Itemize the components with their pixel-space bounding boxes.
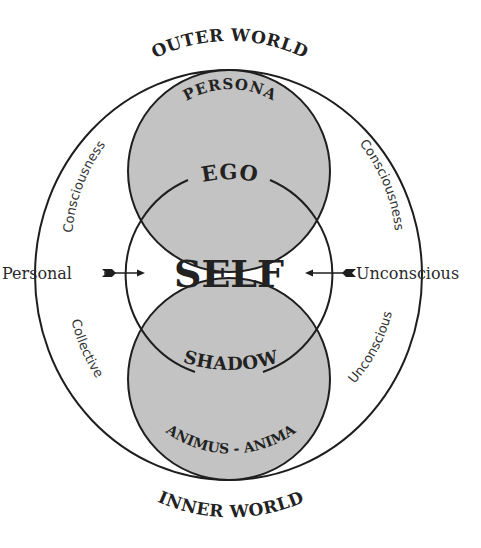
inner-world-label: INNER WORLD xyxy=(155,487,306,522)
arrow-left-icon xyxy=(305,269,356,277)
collective-label: Collective xyxy=(69,317,107,380)
left-consciousness-label: Consciousness xyxy=(60,137,108,233)
unconscious-label: Unconscious xyxy=(356,264,459,283)
self-label: SELF xyxy=(174,251,284,296)
right-unconscious-arc-label: Unconscious xyxy=(345,309,395,386)
outer-world-label: OUTER WORLD xyxy=(148,25,311,62)
ego-label: EGO xyxy=(199,159,260,187)
psyche-diagram: OUTER WORLD INNER WORLD PERSONA EGO SHAD… xyxy=(0,0,481,548)
arrow-right-icon xyxy=(102,269,145,277)
personal-label: Personal xyxy=(2,264,72,283)
